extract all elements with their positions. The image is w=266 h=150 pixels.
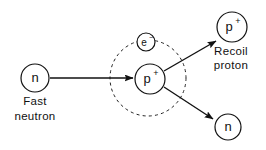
target-proton-charge: + <box>153 68 158 78</box>
orbital-electron-charge: − <box>149 34 153 41</box>
incident-neutron-caption-line1: Fast <box>23 95 47 107</box>
orbital-electron-symbol: e <box>141 37 147 48</box>
diagram-canvas: n Fast neutron e − p + p + Recoil proton… <box>0 0 266 150</box>
recoil-proton-charge: + <box>235 16 240 26</box>
scattered-neutron-arrow-icon <box>164 87 213 119</box>
neutron-scattering-diagram: n Fast neutron e − p + p + Recoil proton… <box>0 0 266 150</box>
recoil-proton-caption-line1: Recoil <box>214 45 248 57</box>
target-proton-symbol: p <box>143 71 150 86</box>
recoil-proton-arrow-icon <box>164 41 216 71</box>
incident-neutron-symbol: n <box>31 70 38 85</box>
incident-neutron-caption-line2: neutron <box>14 110 55 122</box>
recoil-proton-symbol: p <box>225 19 232 34</box>
scattered-neutron-symbol: n <box>224 119 231 134</box>
recoil-proton-caption-line2: proton <box>214 59 248 71</box>
